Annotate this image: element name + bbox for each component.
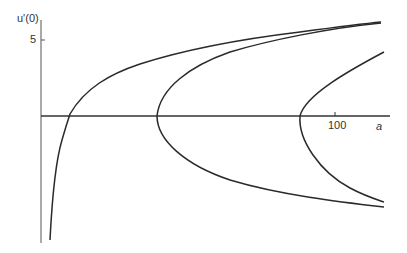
curve-1 <box>50 22 381 240</box>
y-axis-label: u'(0) <box>17 12 39 24</box>
x-axis-label: a <box>376 120 382 132</box>
y-tick-label: 5 <box>30 33 36 45</box>
x-tick-label: 100 <box>328 119 346 131</box>
